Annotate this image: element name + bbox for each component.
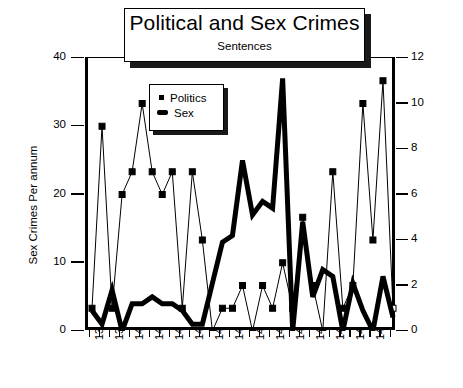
chart-subtitle: Sentences: [125, 40, 364, 52]
legend-label-sex: Sex: [174, 107, 194, 119]
data-point-marker: [240, 283, 246, 289]
data-point-marker: [209, 328, 215, 331]
y-tick-label-right: 12: [411, 51, 437, 63]
data-point-marker: [169, 169, 175, 175]
data-point-marker: [250, 328, 256, 331]
chart-title: Political and Sex Crimes: [125, 11, 364, 35]
x-tick-mark: [169, 330, 170, 337]
plot-area: [85, 57, 395, 330]
data-point-marker: [199, 237, 205, 243]
data-point-marker: [360, 101, 366, 107]
y-tick-mark-left: [71, 330, 84, 332]
x-tick-mark: [109, 330, 110, 337]
y-tick-mark-left: [71, 261, 84, 263]
data-point-marker: [280, 260, 286, 266]
y-tick-label-right: 6: [411, 188, 437, 200]
data-point-marker: [330, 169, 336, 175]
x-tick-mark: [329, 330, 330, 337]
x-tick-mark: [269, 330, 270, 337]
data-point-marker: [159, 192, 165, 198]
y-tick-label-right: 8: [411, 142, 437, 154]
x-tick-mark: [309, 330, 310, 337]
data-point-marker: [219, 305, 225, 311]
y-tick-label-left: 40: [40, 51, 66, 63]
legend-item-sex: Sex: [157, 105, 223, 120]
y-tick-label-right: 0: [411, 324, 437, 336]
x-tick-mark: [289, 330, 290, 337]
y-axis-label: Sex Crimes Per annum: [18, 140, 48, 270]
data-point-marker: [380, 78, 386, 84]
data-point-marker: [119, 192, 125, 198]
data-point-marker: [320, 328, 326, 331]
legend-label-politics: Politics: [170, 92, 206, 104]
square-marker-icon: [159, 95, 164, 100]
y-tick-label-left: 10: [40, 256, 66, 268]
series-line-sex: [92, 78, 393, 331]
data-point-marker: [149, 169, 155, 175]
x-tick-mark: [189, 330, 190, 337]
data-point-marker: [370, 237, 376, 243]
y-tick-label-left: 20: [40, 188, 66, 200]
data-point-marker: [129, 169, 135, 175]
y-axis-label-line2: Per annum: [27, 146, 39, 202]
y-tick-label-right: 2: [411, 279, 437, 291]
title-box: Political and Sex Crimes Sentences: [124, 8, 365, 62]
x-tick-mark: [249, 330, 250, 337]
data-point-marker: [300, 214, 306, 220]
y-axis-label-line1: Sex Crimes: [27, 205, 39, 264]
x-tick-mark: [209, 330, 210, 337]
y-tick-label-right: 4: [411, 233, 437, 245]
x-tick-mark: [89, 330, 90, 337]
y-tick-mark-left: [71, 125, 84, 127]
x-tick-mark: [149, 330, 150, 337]
y-tick-mark-left: [71, 193, 84, 195]
x-tick-mark: [229, 330, 230, 337]
data-point-marker: [229, 305, 235, 311]
x-tick-mark: [390, 330, 391, 337]
data-plot: [88, 58, 398, 331]
data-point-marker: [139, 101, 145, 107]
chart-legend: Politics Sex: [149, 84, 224, 131]
y-tick-label-right: 10: [411, 97, 437, 109]
chart-figure: Political and Sex Crimes Sentences Sex C…: [0, 0, 463, 388]
x-tick-mark: [349, 330, 350, 337]
data-point-marker: [260, 283, 266, 289]
thick-line-icon: [157, 110, 168, 115]
data-point-marker: [189, 169, 195, 175]
series-line-politics: [92, 81, 393, 331]
data-point-marker: [270, 305, 276, 311]
legend-item-politics: Politics: [157, 90, 223, 105]
x-tick-mark: [369, 330, 370, 337]
y-tick-mark-left: [71, 57, 84, 59]
data-point-marker: [99, 123, 105, 129]
y-tick-label-left: 30: [40, 119, 66, 131]
x-tick-mark: [129, 330, 130, 337]
y-tick-label-left: 0: [40, 324, 66, 336]
